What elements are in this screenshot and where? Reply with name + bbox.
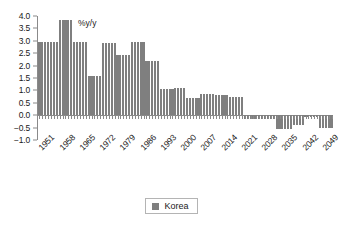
- x-axis-tick-mark: [170, 116, 171, 119]
- y-axis-tick-label: −1.0: [14, 136, 30, 145]
- x-axis-tick-mark: [294, 116, 295, 119]
- x-axis-tick-mark: [175, 116, 176, 119]
- x-axis-tick-mark: [42, 116, 43, 119]
- bar: [47, 42, 49, 116]
- x-axis-tick-mark: [277, 116, 278, 119]
- bar: [134, 42, 136, 115]
- x-axis-tick-mark: [57, 116, 58, 119]
- bar: [229, 97, 231, 115]
- bar: [82, 42, 84, 116]
- x-axis-tick-mark: [112, 116, 113, 119]
- chart-legend: Korea: [0, 198, 343, 214]
- x-axis-tick-mark: [317, 116, 318, 119]
- x-axis-tick-mark: [161, 116, 162, 119]
- x-axis-tick-mark: [94, 116, 95, 119]
- x-axis-tick-mark: [239, 116, 240, 119]
- x-axis-tick-mark: [196, 116, 197, 119]
- x-axis-tick-mark: [268, 116, 269, 119]
- bar: [142, 42, 144, 115]
- y-axis-tick-label: 2.0: [19, 61, 30, 70]
- x-axis-tick-mark: [155, 116, 156, 119]
- bar: [50, 42, 52, 116]
- legend-item-korea: Korea: [145, 198, 197, 214]
- x-axis-tick-mark: [201, 116, 202, 119]
- bar: [114, 43, 116, 115]
- legend-swatch-korea: [152, 203, 159, 210]
- x-axis-tick-mark: [259, 116, 260, 119]
- x-axis-tick-mark: [123, 116, 124, 119]
- x-axis-tick-mark: [207, 116, 208, 119]
- x-axis-tick-mark: [109, 116, 110, 119]
- bar: [238, 97, 240, 115]
- bar: [221, 95, 223, 115]
- bar: [166, 89, 168, 115]
- bar: [163, 89, 165, 115]
- bar: [195, 98, 197, 115]
- bar: [111, 43, 113, 115]
- x-axis-tick-mark: [288, 116, 289, 119]
- bar: [215, 95, 217, 115]
- x-axis-tick-mark: [282, 116, 283, 119]
- y-axis-labels: 4.03.53.02.52.01.51.00.50.0−0.5−1.0: [0, 16, 35, 140]
- x-axis-tick-mark: [144, 116, 145, 119]
- bar: [197, 98, 199, 115]
- x-axis-tick-mark: [245, 116, 246, 119]
- x-axis-tick-mark: [97, 116, 98, 119]
- bar: [119, 55, 121, 116]
- bar: [70, 20, 72, 115]
- x-axis-tick-mark: [106, 116, 107, 119]
- bar: [169, 89, 171, 115]
- bar: [192, 98, 194, 115]
- x-axis-tick-mark: [115, 116, 116, 119]
- x-axis-tick-mark: [323, 116, 324, 119]
- y-axis-tick-label: −0.5: [14, 123, 30, 132]
- x-axis-tick-mark: [303, 116, 304, 119]
- bar: [232, 97, 234, 115]
- x-axis-tick-mark: [230, 116, 231, 119]
- chart-container: 4.03.53.02.52.01.51.00.50.0−0.5−1.0 1951…: [0, 0, 343, 236]
- bar: [79, 42, 81, 116]
- bar: [122, 55, 124, 116]
- bar: [93, 76, 95, 115]
- y-axis-tick-label: 2.5: [19, 49, 30, 58]
- x-axis-tick-mark: [39, 116, 40, 119]
- x-axis-tick-mark: [227, 116, 228, 119]
- bar: [218, 95, 220, 115]
- bar: [99, 76, 101, 115]
- x-axis-tick-mark: [63, 116, 64, 119]
- y-axis-tick-label: 0.0: [19, 111, 30, 120]
- bar: [67, 20, 69, 115]
- x-axis-tick-mark: [129, 116, 130, 119]
- x-axis-tick-mark: [204, 116, 205, 119]
- x-axis-tick-mark: [164, 116, 165, 119]
- bar: [154, 61, 156, 115]
- x-axis-tick-mark: [187, 116, 188, 119]
- bar: [41, 42, 43, 116]
- bar: [145, 61, 147, 115]
- y-axis-tick-label: 1.0: [19, 86, 30, 95]
- x-axis-tick-mark: [306, 116, 307, 119]
- x-axis-tick-mark: [242, 116, 243, 119]
- bar: [203, 94, 205, 115]
- x-axis-tick-mark: [89, 116, 90, 119]
- bar: [53, 42, 55, 116]
- x-axis-ticks: [38, 116, 333, 119]
- bar: [131, 42, 133, 115]
- bar: [186, 98, 188, 115]
- bar: [206, 94, 208, 115]
- x-axis-tick-mark: [149, 116, 150, 119]
- bar: [76, 42, 78, 116]
- x-axis-tick-mark: [265, 116, 266, 119]
- x-axis-tick-mark: [236, 116, 237, 119]
- x-axis-tick-mark: [60, 116, 61, 119]
- bar: [137, 42, 139, 115]
- x-axis-tick-mark: [300, 116, 301, 119]
- bar: [56, 42, 58, 116]
- bar: [235, 97, 237, 115]
- x-axis-tick-mark: [271, 116, 272, 119]
- y-axis-tick-label: 1.5: [19, 74, 30, 83]
- bar: [200, 94, 202, 115]
- bar: [116, 55, 118, 116]
- bar: [151, 61, 153, 115]
- x-axis-tick-mark: [77, 116, 78, 119]
